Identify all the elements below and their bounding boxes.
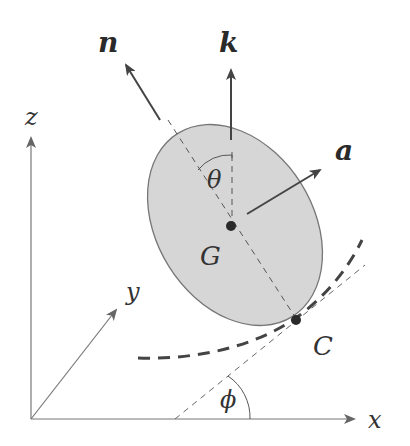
label-y: y: [125, 278, 140, 306]
label-c: C: [313, 331, 333, 361]
label-theta: θ: [207, 166, 222, 194]
label-phi: ϕ: [220, 386, 236, 414]
label-z: z: [24, 103, 38, 131]
label-n: n: [98, 26, 118, 59]
label-k: k: [219, 26, 238, 59]
label-x: x: [368, 406, 382, 434]
vector-n-arrow: [126, 65, 160, 120]
center-of-mass-point: [226, 221, 236, 231]
y-axis: [31, 310, 116, 419]
label-a: a: [335, 134, 353, 167]
diagram-canvas: n k a z y x θ ϕ G C: [0, 0, 410, 446]
contact-point: [291, 315, 301, 325]
label-g: G: [200, 241, 221, 271]
